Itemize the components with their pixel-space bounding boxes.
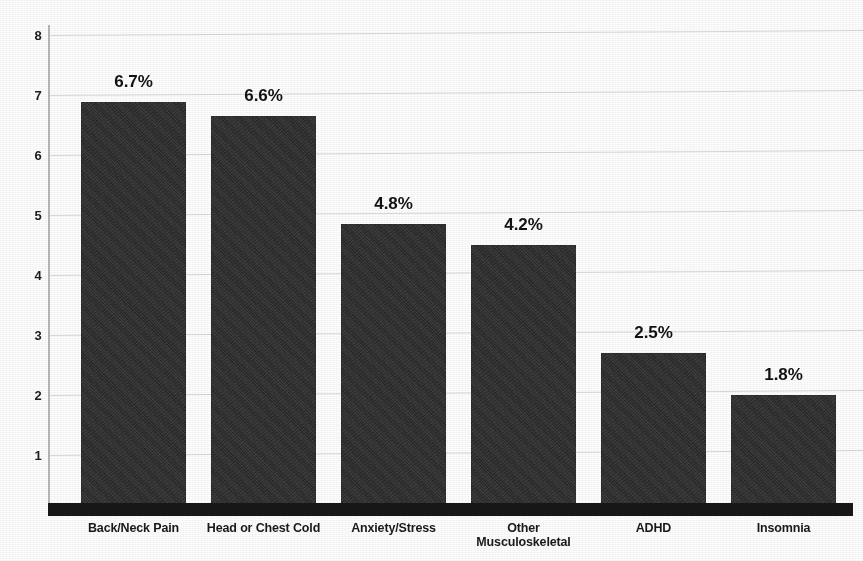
y-tick-label-3: 3	[8, 328, 42, 343]
bar-value-label: 2.5%	[601, 323, 706, 343]
bar[interactable]	[471, 245, 576, 515]
x-category-label: Anxiety/Stress	[327, 521, 460, 535]
x-category-label: Insomnia	[717, 521, 850, 535]
plot-area: 6.7%Back/Neck Pain6.6%Head or Chest Cold…	[48, 0, 863, 561]
y-tick-label-7: 7	[8, 88, 42, 103]
y-tick-label-8: 8	[8, 28, 42, 43]
bar[interactable]	[81, 102, 186, 515]
bar[interactable]	[211, 116, 316, 515]
bar[interactable]	[601, 353, 706, 515]
bar-value-label: 1.8%	[731, 365, 836, 385]
bar[interactable]	[731, 395, 836, 515]
y-tick-label-6: 6	[8, 148, 42, 163]
y-tick-label-1: 1	[8, 448, 42, 463]
bar-chart: 87654321 6.7%Back/Neck Pain6.6%Head or C…	[0, 0, 863, 561]
y-tick-label-4: 4	[8, 268, 42, 283]
y-tick-label-2: 2	[8, 388, 42, 403]
y-axis-tick-labels: 87654321	[0, 0, 42, 561]
x-category-label: Head or Chest Cold	[197, 521, 330, 535]
bar-value-label: 4.8%	[341, 194, 446, 214]
bar-value-label: 6.7%	[81, 72, 186, 92]
x-category-label: Back/Neck Pain	[67, 521, 200, 535]
bar-value-label: 6.6%	[211, 86, 316, 106]
x-axis-baseline	[48, 503, 853, 516]
x-category-label: ADHD	[587, 521, 720, 535]
bar-value-label: 4.2%	[471, 215, 576, 235]
y-axis-line	[48, 25, 50, 505]
x-category-label: Other Musculoskeletal	[457, 521, 590, 549]
bar[interactable]	[341, 224, 446, 515]
y-tick-label-5: 5	[8, 208, 42, 223]
